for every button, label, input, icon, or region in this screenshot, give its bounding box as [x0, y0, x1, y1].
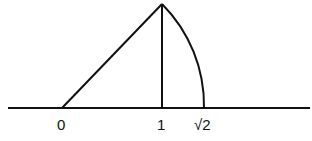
label-one: 1 — [157, 116, 165, 133]
label-sqrt2: √2 — [194, 116, 211, 133]
label-zero: 0 — [57, 116, 65, 133]
hypotenuse — [62, 4, 162, 108]
sqrt2-construction-diagram: 0 1 √2 — [0, 0, 312, 141]
compass-arc — [162, 4, 204, 108]
